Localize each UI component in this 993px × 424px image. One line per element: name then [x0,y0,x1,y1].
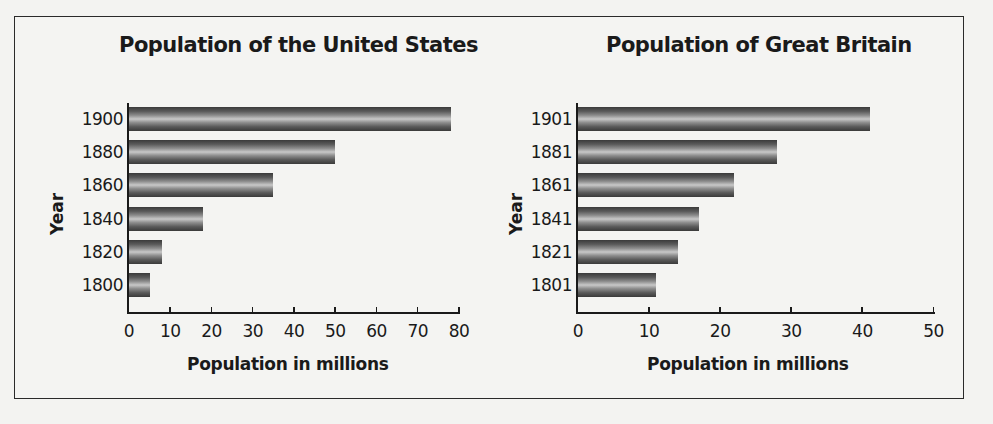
x-axis-line [576,312,935,314]
x-tick-label: 80 [439,321,479,341]
x-tick [790,307,792,312]
x-tick-label: 10 [150,321,190,341]
x-tick [933,307,935,312]
chart-title: Population of Great Britain [606,33,912,57]
x-tick-label: 0 [558,321,598,341]
y-tick-label: 1841 [516,209,572,229]
x-tick [169,307,171,312]
y-tick-label: 1860 [67,175,123,195]
y-tick-label: 1801 [516,275,572,295]
y-tick-label: 1880 [67,142,123,162]
y-axis-label: Year [47,193,67,235]
bar [129,140,335,164]
y-tick-label: 1800 [67,275,123,295]
bar [129,173,273,197]
bar [129,207,203,231]
x-tick-label: 0 [109,321,149,341]
bar [578,140,777,164]
y-tick-label: 1881 [516,142,572,162]
x-tick-label: 30 [233,321,273,341]
x-tick [334,307,336,312]
x-tick-label: 50 [914,321,954,341]
x-tick [648,307,650,312]
x-axis-line [127,312,460,314]
x-tick-label: 60 [357,321,397,341]
bar [129,240,162,264]
x-tick [417,307,419,312]
x-tick [861,307,863,312]
x-tick [458,307,460,312]
x-tick-label: 10 [629,321,669,341]
y-tick-label: 1840 [67,209,123,229]
x-axis-label: Population in millions [647,354,849,374]
bar [578,273,656,297]
x-tick-label: 40 [274,321,314,341]
y-tick-label: 1820 [67,242,123,262]
x-tick [211,307,213,312]
figure-frame: Population of the United States Year Pop… [14,16,964,399]
x-tick-label: 40 [842,321,882,341]
x-axis-label: Population in millions [187,354,389,374]
y-tick-label: 1861 [516,175,572,195]
x-tick-label: 50 [315,321,355,341]
bar [578,240,678,264]
x-tick-label: 70 [398,321,438,341]
y-tick-label: 1900 [67,109,123,129]
y-tick-label: 1821 [516,242,572,262]
x-tick-label: 30 [771,321,811,341]
chart-title: Population of the United States [119,33,478,57]
bar [578,107,870,131]
x-tick-label: 20 [700,321,740,341]
x-tick-label: 20 [192,321,232,341]
y-tick-label: 1901 [516,109,572,129]
bar [129,273,150,297]
x-tick [293,307,295,312]
bar [578,207,699,231]
x-tick [376,307,378,312]
x-tick [252,307,254,312]
x-tick [719,307,721,312]
bar [129,107,451,131]
bar [578,173,734,197]
